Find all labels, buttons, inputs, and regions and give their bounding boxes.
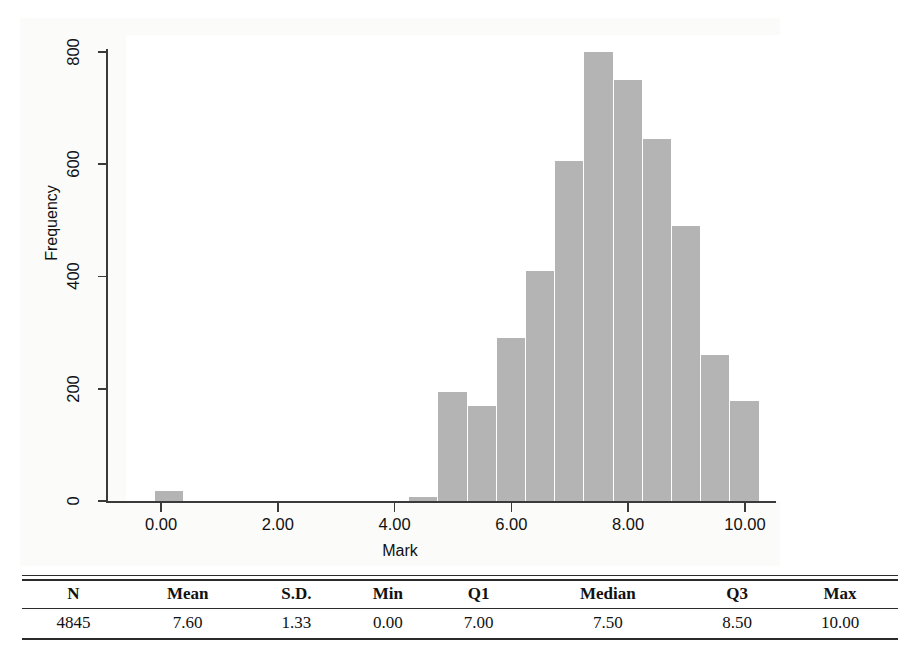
stats-column-header: Q1 <box>434 580 524 609</box>
x-axis-line <box>106 501 776 503</box>
x-axis-tick-label: 4.00 <box>360 515 430 534</box>
table-row: 48457.601.330.007.007.508.5010.00 <box>22 609 898 640</box>
x-axis-tick <box>160 503 162 512</box>
histogram-bar <box>438 392 467 501</box>
x-axis-tick <box>744 503 746 512</box>
y-axis-tick <box>98 163 107 165</box>
y-axis-tick-label: 0 <box>56 492 90 510</box>
histogram-bar <box>672 226 701 501</box>
stats-column-header: Median <box>524 580 693 609</box>
x-axis-tick <box>394 503 396 512</box>
histogram-bar <box>468 406 497 501</box>
x-axis-title: Mark <box>20 542 780 560</box>
stats-cell: 7.60 <box>125 609 251 640</box>
y-axis-tick-label: 800 <box>56 43 90 61</box>
y-axis-tick-label: 400 <box>56 267 90 285</box>
histogram-figure: 0200400600800 0.002.004.006.008.0010.00 … <box>0 0 919 656</box>
stats-column-header: Q3 <box>692 580 782 609</box>
histogram-bar <box>555 161 584 501</box>
y-axis-tick <box>98 500 107 502</box>
x-axis-tick-label: 10.00 <box>710 515 780 534</box>
x-axis-tick-label: 0.00 <box>126 515 196 534</box>
y-axis-tick-label: 600 <box>56 155 90 173</box>
x-axis-tick <box>511 503 513 512</box>
summary-statistics-table: NMeanS.D.MinQ1MedianQ3Max 48457.601.330.… <box>22 575 898 640</box>
y-axis-title: Frequency <box>43 143 61 303</box>
stats-cell: 8.50 <box>692 609 782 640</box>
histogram-bar <box>643 139 672 501</box>
stats-column-header: Mean <box>125 580 251 609</box>
histogram-bar <box>701 355 730 501</box>
stats-table: NMeanS.D.MinQ1MedianQ3Max 48457.601.330.… <box>22 575 898 640</box>
stats-cell: 7.50 <box>524 609 693 640</box>
stats-table-body: 48457.601.330.007.007.508.5010.00 <box>22 609 898 640</box>
stats-column-header: S.D. <box>251 580 342 609</box>
histogram-bar <box>155 491 184 501</box>
stats-column-header: N <box>22 580 125 609</box>
histogram-bar <box>584 52 613 501</box>
stats-table-head: NMeanS.D.MinQ1MedianQ3Max <box>22 576 898 609</box>
histogram-bar <box>614 80 643 501</box>
y-axis-tick-label: 200 <box>56 380 90 398</box>
y-axis-tick <box>98 51 107 53</box>
stats-column-header: Min <box>342 580 433 609</box>
stats-cell: 10.00 <box>782 609 898 640</box>
plot-inner: 0200400600800 0.002.004.006.008.0010.00 … <box>20 18 780 566</box>
stats-cell: 4845 <box>22 609 125 640</box>
histogram-bar <box>526 271 555 501</box>
x-axis-tick-label: 8.00 <box>593 515 663 534</box>
stats-cell: 1.33 <box>251 609 342 640</box>
histogram-bar <box>730 401 759 501</box>
bars-layer <box>126 35 780 501</box>
y-axis-tick <box>98 388 107 390</box>
y-axis-tick <box>98 276 107 278</box>
x-axis-tick <box>627 503 629 512</box>
x-axis-tick <box>277 503 279 512</box>
x-axis-tick-label: 6.00 <box>476 515 546 534</box>
x-axis-tick-label: 2.00 <box>243 515 313 534</box>
stats-column-header: Max <box>782 580 898 609</box>
chart-panel: 0200400600800 0.002.004.006.008.0010.00 … <box>20 18 780 566</box>
plot-area <box>126 35 780 501</box>
stats-cell: 0.00 <box>342 609 433 640</box>
stats-cell: 7.00 <box>434 609 524 640</box>
histogram-bar <box>497 338 526 501</box>
stats-header-row: NMeanS.D.MinQ1MedianQ3Max <box>22 580 898 609</box>
